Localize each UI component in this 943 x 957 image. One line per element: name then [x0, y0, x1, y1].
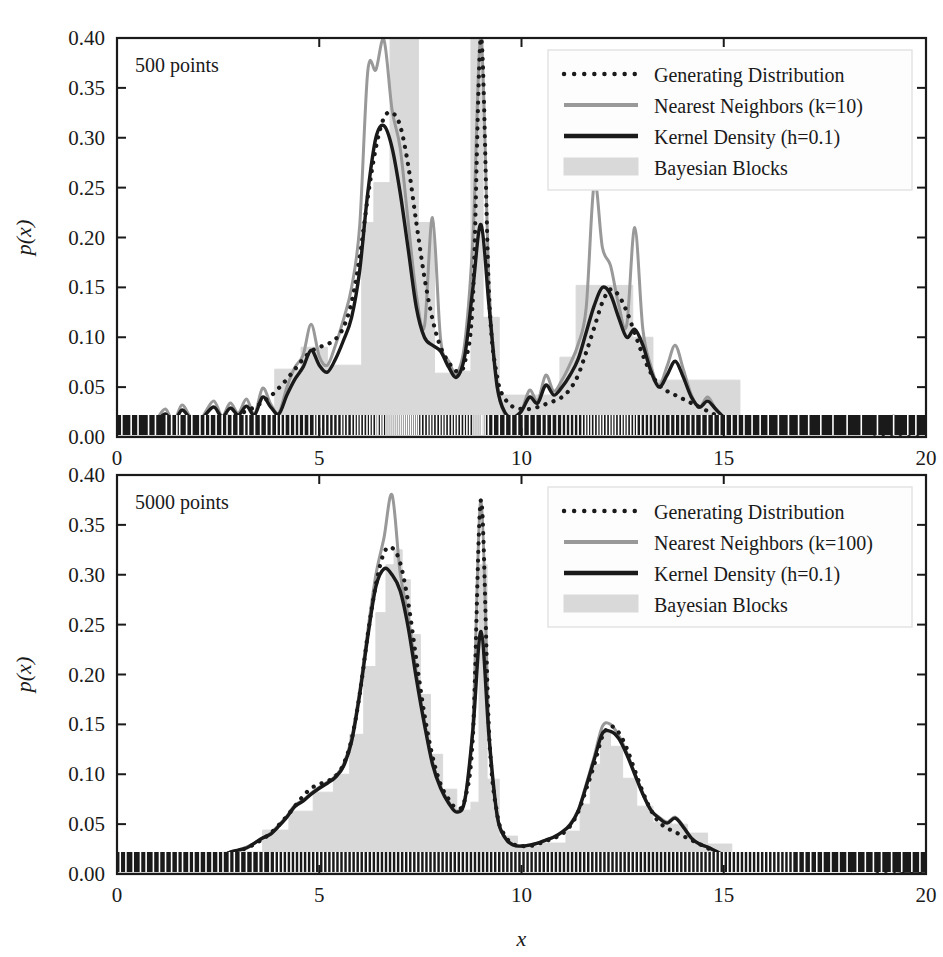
chart-svg-top: 0.000.050.100.150.200.250.300.350.400510… — [0, 0, 943, 470]
y-tick-label: 0.20 — [68, 226, 105, 250]
y-tick-label: 0.35 — [68, 513, 105, 537]
y-tick-label: 0.25 — [68, 613, 105, 637]
legend: Generating DistributionNearest Neighbors… — [548, 487, 912, 627]
y-axis-title: p(x) — [11, 657, 36, 694]
y-tick-label: 0.30 — [68, 563, 105, 587]
y-tick-label: 0.15 — [68, 712, 105, 736]
legend-label: Generating Distribution — [654, 501, 845, 524]
legend-label: Generating Distribution — [654, 64, 845, 87]
y-tick-label: 0.20 — [68, 663, 105, 687]
x-tick-label: 5 — [314, 883, 325, 907]
y-tick-label: 0.00 — [68, 425, 105, 449]
y-tick-label: 0.40 — [68, 26, 105, 50]
legend-label: Nearest Neighbors (k=100) — [654, 532, 873, 555]
y-tick-label: 0.35 — [68, 76, 105, 100]
x-tick-label: 15 — [713, 883, 734, 907]
y-tick-label: 0.25 — [68, 176, 105, 200]
y-tick-label: 0.00 — [68, 862, 105, 886]
y-tick-label: 0.05 — [68, 812, 105, 836]
y-axis-title: p(x) — [11, 220, 36, 257]
legend: Generating DistributionNearest Neighbors… — [548, 50, 912, 190]
x-axis-title: x — [516, 926, 527, 951]
legend-key-patch — [564, 158, 638, 175]
legend-label: Nearest Neighbors (k=10) — [654, 95, 863, 118]
legend-label: Kernel Density (h=0.1) — [654, 126, 840, 149]
panel-annotation: 500 points — [135, 54, 219, 77]
y-tick-label: 0.10 — [68, 762, 105, 786]
x-tick-label: 20 — [916, 883, 937, 907]
chart-panel-top: 0.000.050.100.150.200.250.300.350.400510… — [0, 0, 943, 470]
legend-label: Bayesian Blocks — [654, 594, 788, 617]
x-tick-label: 0 — [112, 883, 123, 907]
chart-svg-bottom: 0.000.050.100.150.200.250.300.350.400510… — [0, 463, 943, 957]
y-tick-label: 0.10 — [68, 325, 105, 349]
legend-label: Kernel Density (h=0.1) — [654, 563, 840, 586]
panel-annotation: 5000 points — [135, 491, 229, 514]
legend-label: Bayesian Blocks — [654, 157, 788, 180]
y-tick-label: 0.30 — [68, 126, 105, 150]
y-tick-label: 0.05 — [68, 375, 105, 399]
figure-root: 0.000.050.100.150.200.250.300.350.400510… — [0, 0, 943, 957]
x-tick-label: 10 — [511, 883, 532, 907]
chart-panel-bottom: 0.000.050.100.150.200.250.300.350.400510… — [0, 463, 943, 957]
legend-key-patch — [564, 595, 638, 612]
y-tick-label: 0.40 — [68, 463, 105, 487]
y-tick-label: 0.15 — [68, 275, 105, 299]
